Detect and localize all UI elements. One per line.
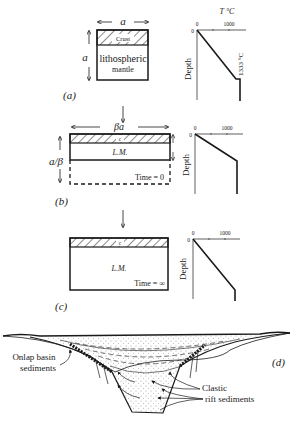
panel-a: a a Crust lithospheric mantle (a) T °C 0… <box>63 7 246 102</box>
width-label: a <box>120 15 126 27</box>
stretched-width-label: βa <box>113 121 124 132</box>
clastic-label-1: Clastic <box>202 383 227 393</box>
x-tick-0: 0 <box>194 125 197 131</box>
height-label: a <box>82 51 88 63</box>
geotherm-line <box>193 239 235 301</box>
depth-axis-title: Depth <box>181 154 191 176</box>
x-tick-1000: 1000 <box>222 125 233 131</box>
depth-axis-title: Depth <box>178 258 188 280</box>
panel-label-a: (a) <box>63 89 76 102</box>
panel-d-basin-section: Onlap basin sediments Clastic rift sedim… <box>3 332 290 413</box>
crust-label: Crust <box>116 35 130 42</box>
x-tick-0: 0 <box>196 21 199 27</box>
depth-axis-title: Depth <box>183 58 193 80</box>
geotherm-chart-a: T °C 0 1000 0 Depth 1333 °C <box>183 7 246 101</box>
geotherm-line <box>197 30 240 101</box>
temperature-axis-title: T °C <box>220 7 236 16</box>
clastic-label-2: rift sediments <box>205 394 255 404</box>
mantle-label: L.M. <box>110 264 126 273</box>
panel-c: c L.M. Time = ∞ (c) 0 1000 0 Depth <box>55 230 240 313</box>
time-label: Time = ∞ <box>134 279 165 288</box>
x-tick-1000: 1000 <box>220 230 231 236</box>
mantle-label-2: mantle <box>112 65 134 74</box>
panel-label-d: (d) <box>272 356 285 369</box>
panel-label-c: (c) <box>55 300 68 313</box>
y-origin-label: 0 <box>189 132 192 138</box>
onlap-label-2: sediments <box>20 363 56 373</box>
geotherm-chart-b: 0 1000 0 Depth <box>181 125 243 194</box>
mantle-label: L.M. <box>111 148 127 157</box>
x-tick-0: 0 <box>192 230 195 236</box>
panel-b: βa a/β c L.M. Time = 0 (b) 0 1000 0 Dept… <box>49 121 243 208</box>
asthenosphere-temp-label: 1333 °C <box>237 52 245 76</box>
time-label: Time = 0 <box>135 173 164 182</box>
y-origin-label: 0 <box>191 28 194 34</box>
thinned-height-label: a/β <box>49 155 64 167</box>
onlap-label-1: Onlap basin <box>12 352 56 362</box>
mantle-label-1: lithospheric <box>99 53 147 64</box>
panel-label-b: (b) <box>55 195 68 208</box>
geotherm-line <box>195 134 237 194</box>
geotherm-chart-c: 0 1000 0 Depth <box>178 230 240 301</box>
x-tick-1000: 1000 <box>224 21 235 27</box>
y-origin-label: 0 <box>187 237 190 243</box>
rift-basin-diagram: a a Crust lithospheric mantle (a) T °C 0… <box>0 0 299 424</box>
